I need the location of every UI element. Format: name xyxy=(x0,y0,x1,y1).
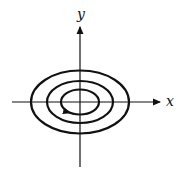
phase-portrait-diagram: y x xyxy=(0,0,181,178)
diagram-svg: y x xyxy=(0,0,181,178)
x-axis-label: x xyxy=(166,93,174,109)
y-axis-label: y xyxy=(76,6,86,22)
